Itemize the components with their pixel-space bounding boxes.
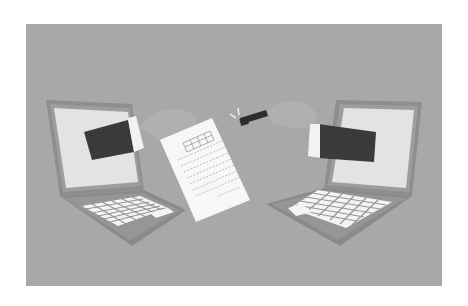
- file-transfer-illustration: [0, 0, 468, 306]
- usb-flash-drive: [230, 108, 268, 126]
- hand-ghost-right: [268, 101, 316, 129]
